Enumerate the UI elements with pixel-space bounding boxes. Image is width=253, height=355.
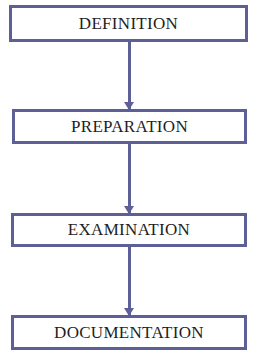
step-label: DOCUMENTATION <box>54 323 204 343</box>
step-definition: DEFINITION <box>9 5 248 42</box>
arrow-preparation-to-examination <box>128 144 131 213</box>
arrow-examination-to-documentation <box>128 247 131 315</box>
step-label: PREPARATION <box>71 117 188 137</box>
step-label: DEFINITION <box>79 14 178 34</box>
arrow-definition-to-preparation <box>128 42 131 109</box>
step-documentation: DOCUMENTATION <box>11 315 247 350</box>
step-examination: EXAMINATION <box>11 213 247 247</box>
step-label: EXAMINATION <box>68 220 190 240</box>
step-preparation: PREPARATION <box>12 109 247 144</box>
